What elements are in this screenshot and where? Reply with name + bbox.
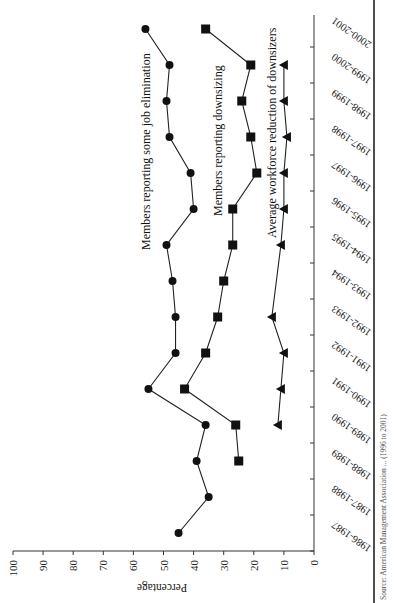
- rotated-line-chart: Source: American Management Association …: [0, 0, 394, 603]
- category-label: 1998-1999: [330, 87, 374, 122]
- value-tick-label: 10: [278, 560, 290, 572]
- value-tick-label: 60: [127, 560, 139, 572]
- data-point-circle: [166, 133, 174, 141]
- value-ticks: 0102030405060708090100: [7, 551, 320, 577]
- value-tick-label: 70: [97, 560, 109, 572]
- category-label: 1996-1997: [330, 159, 374, 194]
- data-point-circle: [166, 61, 174, 69]
- value-tick-label: 80: [67, 560, 79, 572]
- data-point-circle: [169, 277, 177, 285]
- source-note: Source: American Management Association …: [379, 414, 388, 600]
- axes: 1986-19871987-19881988-19891989-19901990…: [7, 15, 373, 577]
- category-label: 1994-1995: [330, 231, 374, 266]
- data-point-square: [252, 169, 261, 178]
- data-point-square: [219, 277, 228, 286]
- data-point-square: [228, 205, 237, 214]
- data-point-circle: [187, 169, 195, 177]
- data-point-circle: [172, 349, 180, 357]
- category-label: 1990-1991: [330, 375, 374, 410]
- data-point-circle: [141, 25, 149, 33]
- data-point-square: [234, 457, 243, 466]
- data-point-square: [237, 97, 246, 106]
- data-point-circle: [205, 493, 213, 501]
- data-point-circle: [172, 313, 180, 321]
- data-point-square: [180, 385, 189, 394]
- category-label: 1993-1994: [329, 267, 373, 303]
- category-label: 2000-2001: [330, 15, 374, 50]
- series-label-workforce-reduction: Average workforce reduction of downsizer…: [265, 27, 279, 238]
- value-tick-label: 40: [188, 560, 200, 572]
- data-point-triangle: [267, 312, 276, 322]
- data-point-circle: [163, 97, 171, 105]
- value-tick-label: 50: [158, 560, 170, 572]
- category-label: 1997-1998: [330, 123, 374, 158]
- series-label-job-elimination: Members reporting some job elimination: [139, 53, 153, 250]
- data-point-circle: [193, 457, 201, 465]
- category-label: 1995-1996: [330, 195, 374, 230]
- data-point-square: [213, 313, 222, 322]
- data-point-circle: [190, 205, 198, 213]
- data-point-triangle: [273, 420, 282, 430]
- data-point-square: [246, 133, 255, 142]
- category-label: 1992-1993: [330, 303, 374, 338]
- data-point-square: [201, 349, 210, 358]
- value-tick-label: 90: [37, 560, 49, 572]
- value-tick-label: 30: [218, 560, 230, 572]
- data-point-square: [231, 421, 240, 430]
- data-point-circle: [202, 421, 210, 429]
- data-point-square: [201, 25, 210, 34]
- series-line: [145, 29, 208, 533]
- data-point-circle: [144, 385, 152, 393]
- data-point-circle: [163, 241, 171, 249]
- series-label-downsizing: Members reporting downsizing: [211, 65, 225, 216]
- category-ticks: 1986-19871987-19881988-19891989-19901990…: [310, 15, 373, 554]
- data-point-circle: [175, 529, 183, 537]
- category-label: 1987-1988: [330, 483, 374, 518]
- category-label: 1999-2000: [330, 51, 374, 86]
- value-tick-label: 20: [248, 560, 260, 572]
- value-tick-label: 100: [7, 560, 19, 577]
- category-label: 1988-1989: [330, 447, 374, 482]
- category-label: 1986-1987: [330, 519, 374, 554]
- value-tick-label: 0: [308, 560, 320, 566]
- y-axis-title: Percentage: [137, 581, 187, 594]
- data-point-square: [228, 241, 237, 250]
- data-point-square: [246, 61, 255, 70]
- category-label: 1989-1990: [330, 411, 374, 446]
- category-label: 1991-1992: [330, 339, 374, 374]
